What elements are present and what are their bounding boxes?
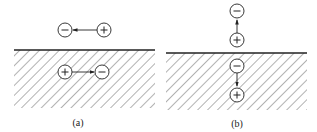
hatched-medium-a xyxy=(14,50,155,108)
dipole-surface-diagram: (a) (b) xyxy=(0,0,317,132)
panel-label-a: (a) xyxy=(72,117,83,129)
dipole-above-a xyxy=(58,23,111,37)
panel-a: (a) xyxy=(14,23,155,129)
dipole-above-b xyxy=(230,4,244,47)
panel-b: (b) xyxy=(166,4,307,130)
panel-label-b: (b) xyxy=(231,118,243,130)
